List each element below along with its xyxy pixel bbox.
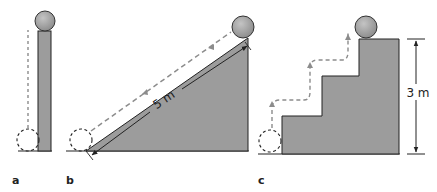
path-arrow-icon xyxy=(269,101,275,107)
start-ball-outline xyxy=(17,129,39,151)
work-energy-diagram: 5 m 3 m xyxy=(0,0,437,192)
dimension-tick xyxy=(86,151,93,160)
start-ball-outline xyxy=(70,129,92,151)
path-arrow-icon xyxy=(307,62,313,68)
panel-label-b: b xyxy=(66,174,74,187)
panel-a xyxy=(17,11,55,151)
staircase xyxy=(282,39,399,154)
height-label: 3 m xyxy=(406,86,429,100)
path-arrow-icon xyxy=(142,89,148,95)
start-ball-outline xyxy=(259,130,281,152)
path-arrow-icon xyxy=(345,34,351,40)
ball-top xyxy=(232,16,254,38)
ball-top xyxy=(35,11,55,31)
panel-c: 3 m xyxy=(258,16,430,154)
panel-label-a: a xyxy=(12,174,19,187)
panel-b: 5 m xyxy=(66,16,254,160)
vertical-column xyxy=(38,31,51,151)
ball-top xyxy=(355,16,377,38)
panel-label-c: c xyxy=(258,174,265,187)
